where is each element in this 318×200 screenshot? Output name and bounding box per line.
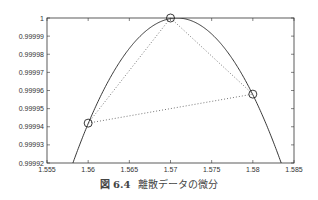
x-tick-label: 1.565 — [121, 166, 139, 173]
figure-label: 図 6.4 — [100, 179, 131, 190]
secant-line — [171, 18, 253, 94]
secant-line — [88, 18, 170, 123]
x-tick-label: 1.56 — [81, 166, 95, 173]
chart: 1.5551.561.5651.571.5751.581.5850.999920… — [0, 0, 318, 200]
x-tick-label: 1.57 — [164, 166, 178, 173]
y-tick-label: 0.99995 — [19, 105, 44, 112]
y-tick-label: 0.99992 — [19, 160, 44, 167]
y-tick-label: 0.99999 — [19, 33, 44, 40]
figure-caption: 図 6.4離散データの微分 — [0, 176, 318, 191]
caption-text: 離散データの微分 — [138, 179, 218, 190]
x-tick-label: 1.575 — [203, 166, 221, 173]
y-tick-label: 0.99998 — [19, 51, 44, 58]
axes-box — [47, 18, 294, 163]
x-tick-label: 1.58 — [246, 166, 260, 173]
y-tick-label: 1 — [40, 15, 44, 22]
y-tick-label: 0.99996 — [19, 87, 44, 94]
x-tick-label: 1.555 — [38, 166, 56, 173]
x-tick-label: 1.585 — [285, 166, 303, 173]
secant-line — [88, 94, 253, 123]
y-tick-label: 0.99993 — [19, 141, 44, 148]
y-tick-label: 0.99994 — [19, 123, 44, 130]
y-tick-label: 0.99997 — [19, 69, 44, 76]
